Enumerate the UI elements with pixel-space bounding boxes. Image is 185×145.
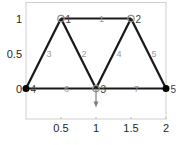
element-label: 4 xyxy=(117,49,122,59)
element-label: 2 xyxy=(82,49,87,59)
y-tick-label: 0.5 xyxy=(7,48,22,60)
node-label: 4 xyxy=(31,84,37,95)
element-label: 3 xyxy=(47,49,52,59)
x-tick-label: 2 xyxy=(163,122,169,134)
x-tick-label: 1 xyxy=(93,122,99,134)
node-label: 1 xyxy=(66,14,72,25)
truss-diagram: 0.511.5200.51 1234567 12345 xyxy=(0,0,185,145)
support-node xyxy=(163,85,170,92)
element-label: 6 xyxy=(64,84,69,94)
y-tick-label: 0 xyxy=(16,83,22,95)
node-label: 3 xyxy=(101,84,107,95)
element-label: 1 xyxy=(99,14,104,24)
x-tick-label: 0.5 xyxy=(53,122,68,134)
node-label: 5 xyxy=(171,84,177,95)
element-label: 5 xyxy=(152,49,157,59)
node-label: 2 xyxy=(136,14,142,25)
x-tick-label: 1.5 xyxy=(123,122,138,134)
element-label: 7 xyxy=(134,84,139,94)
support-node xyxy=(23,85,30,92)
y-tick-label: 1 xyxy=(16,13,22,25)
